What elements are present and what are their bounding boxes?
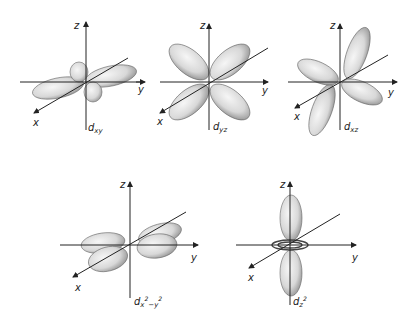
orbital-dyz bbox=[136, 24, 268, 130]
label-sup: 2 bbox=[303, 295, 307, 302]
z-axis-label: z bbox=[74, 21, 79, 31]
label-sup: 2 bbox=[158, 295, 162, 302]
orbital-label-dxz: dxz bbox=[344, 122, 358, 134]
label-sub: −y bbox=[148, 301, 158, 309]
orbital-label-dz2: dz2 bbox=[293, 296, 307, 309]
z-axis-label: z bbox=[200, 21, 205, 31]
label-sub: xz bbox=[350, 126, 358, 134]
lobes bbox=[80, 219, 184, 276]
x-axis-label: x bbox=[157, 117, 163, 127]
z-axis-label: z bbox=[280, 180, 285, 190]
label-sub: yz bbox=[219, 126, 227, 134]
y-axis-label: y bbox=[262, 86, 268, 96]
orbital-dz2 bbox=[236, 182, 356, 305]
orbital-dxy bbox=[20, 22, 140, 130]
y-axis-label: y bbox=[191, 253, 197, 263]
orbital-dxz bbox=[288, 24, 397, 139]
label-sub: z bbox=[299, 301, 303, 309]
y-axis-label: y bbox=[388, 88, 394, 98]
x-axis-label: x bbox=[33, 118, 39, 128]
x-axis-label: x bbox=[294, 112, 300, 122]
axes bbox=[60, 182, 198, 298]
x-axis-label: x bbox=[248, 273, 254, 283]
orbital-label-dyz: dyz bbox=[213, 122, 227, 134]
d-orbitals-diagram bbox=[0, 0, 410, 317]
x-axis-label: x bbox=[75, 283, 81, 293]
z-axis-label: z bbox=[330, 21, 335, 31]
label-sub: x bbox=[140, 301, 144, 309]
label-sub: xy bbox=[94, 127, 102, 135]
y-axis-label: y bbox=[352, 253, 358, 263]
y-axis-label: y bbox=[138, 85, 144, 95]
orbital-label-dx2-y2: dx2−y2 bbox=[134, 296, 162, 309]
orbital-dx2-y2 bbox=[60, 182, 198, 298]
orbital-label-dxy: dxy bbox=[88, 123, 103, 135]
z-axis-label: z bbox=[120, 180, 125, 190]
axes bbox=[288, 24, 397, 130]
